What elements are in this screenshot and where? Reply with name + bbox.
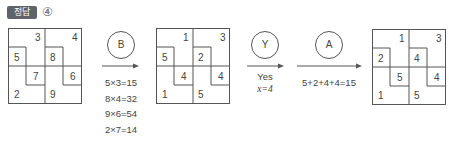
cell-br-l: 5 [414,90,420,101]
cell-br-l: 5 [198,89,204,100]
cell-tl-sq: 5 [14,52,20,63]
cell-br-sq: 4 [434,72,440,83]
step-y-circle: Y [251,31,279,59]
cell-tl-sq: 2 [378,53,384,64]
step-y-note-1: Yes [245,71,285,82]
step-a-circle: A [315,31,343,59]
answer-badge: 정답 [7,6,37,19]
cell-bl-sq: 5 [397,72,403,83]
cell-tr-sq: 8 [50,52,56,63]
step-y-note-2: x=4 [245,84,285,94]
cell-br-l: 9 [50,89,56,100]
cell-tr-sq: 4 [414,53,420,64]
arrow-icon [102,62,140,70]
cell-br-sq: 6 [70,71,76,82]
arrow-icon [247,62,285,70]
cell-br-sq: 4 [218,71,224,82]
cell-bl-sq: 4 [181,71,187,82]
step-b-circle: B [107,31,135,59]
step-b-note-2: 8×4=32 [100,93,142,104]
step-b-note-3: 9×6=54 [100,108,142,119]
cell-bl-sq: 7 [33,71,39,82]
grid-initial: 3 5 4 8 7 2 6 9 [8,28,82,104]
step-b-note-1: 5×3=15 [100,77,142,88]
arrow-icon [297,62,363,70]
grid-final: 1 2 3 4 5 1 4 5 [372,29,446,105]
cell-tr-l: 4 [72,32,78,43]
cell-bl-l: 1 [378,90,384,101]
step-b-note-4: 2×7=14 [100,124,142,135]
cell-tr-sq: 2 [198,52,204,63]
cell-bl-l: 1 [162,89,168,100]
cell-tl-sq: 5 [162,52,168,63]
answer-choice: ④ [42,4,53,20]
cell-bl-l: 2 [14,89,20,100]
cell-tr-l: 3 [436,33,442,44]
cell-tr-l: 3 [220,32,226,43]
cell-tl-l: 1 [183,32,189,43]
cell-tl-l: 1 [399,33,405,44]
cell-tl-l: 3 [35,32,41,43]
step-a-note-1: 5+2+4+4=15 [294,77,364,88]
grid-after-b: 1 5 3 2 4 1 4 5 [156,28,230,104]
